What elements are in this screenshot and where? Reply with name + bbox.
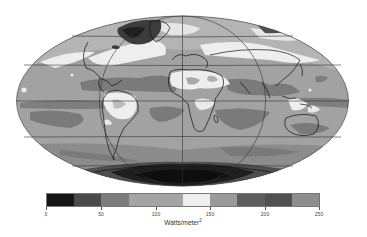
colorbar-segment-125-150 — [183, 194, 210, 206]
colorbar-tick-label: 0 — [45, 211, 48, 217]
colorbar-units-label: Watts/meter2 — [164, 218, 201, 226]
colorbar-tick — [156, 207, 157, 210]
colorbar-segment-225-250 — [292, 194, 319, 206]
colorbar — [46, 193, 320, 207]
units-superscript: 2 — [199, 218, 202, 223]
colorbar-tick — [46, 207, 47, 210]
colorbar-segment-25-50 — [74, 194, 101, 206]
colorbar-tick-label: 150 — [206, 211, 214, 217]
colorbar-segment-175-200 — [237, 194, 264, 206]
colorbar-tick — [210, 207, 211, 210]
colorbar-segment-0-25 — [47, 194, 74, 206]
colorbar-segment-200-225 — [265, 194, 292, 206]
map-field — [0, 0, 367, 192]
units-text: Watts/meter — [164, 219, 199, 226]
colorbar-segment-150-175 — [210, 194, 237, 206]
colorbar-tick — [101, 207, 102, 210]
colorbar-segment-50-75 — [101, 194, 128, 206]
colorbar-tick-label: 50 — [98, 211, 104, 217]
colorbar-tick-label: 100 — [152, 211, 160, 217]
colorbar-tick — [265, 207, 266, 210]
world-map — [0, 0, 367, 192]
colorbar-segment-75-125 — [129, 194, 183, 206]
colorbar-tick-label: 200 — [261, 211, 269, 217]
colorbar-tick — [319, 207, 320, 210]
colorbar-tick-label: 250 — [315, 211, 323, 217]
